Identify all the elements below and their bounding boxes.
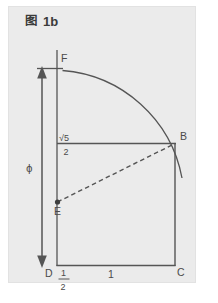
label-side-one: 1 xyxy=(108,268,114,280)
point-e-marker xyxy=(55,199,60,204)
geometry-diagram: F B C D E ϕ √5 2 1 2 1 xyxy=(0,0,218,303)
label-sqrt5-denominator: 2 xyxy=(64,147,69,157)
label-half-denominator: 2 xyxy=(61,282,66,292)
label-point-b: B xyxy=(180,130,187,142)
arc-centered-at-e xyxy=(63,71,183,179)
label-point-d: D xyxy=(45,267,53,279)
label-point-e: E xyxy=(54,205,61,217)
label-point-f: F xyxy=(61,52,67,64)
label-phi: ϕ xyxy=(26,163,33,174)
segment-e-to-b-dashed xyxy=(58,144,176,203)
label-half-numerator: 1 xyxy=(61,268,66,278)
figure-container: 图 1b F B C D E ϕ √5 2 xyxy=(0,0,218,303)
label-point-c: C xyxy=(177,266,185,278)
label-sqrt5-numerator: √5 xyxy=(59,133,69,143)
